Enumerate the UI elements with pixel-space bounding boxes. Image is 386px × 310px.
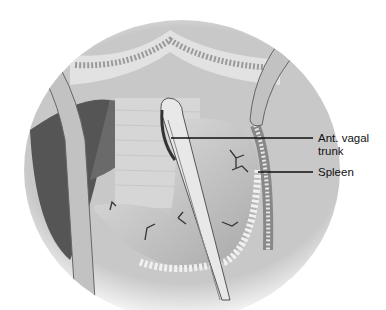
- label-line: Ant. vagal: [318, 132, 369, 145]
- label-spleen: Spleen: [318, 166, 354, 179]
- label-ant-vagal-trunk: Ant. vagal trunk: [318, 132, 369, 158]
- label-line: Spleen: [318, 166, 354, 179]
- label-line: trunk: [318, 145, 369, 158]
